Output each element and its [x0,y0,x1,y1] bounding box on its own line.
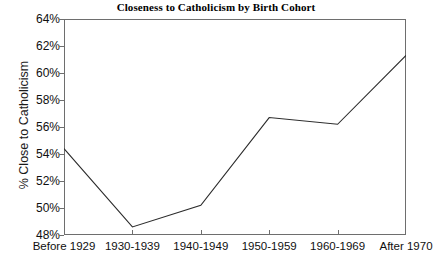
x-tick-label: 1930-1939 [105,240,160,252]
x-tick-label: 1950-1959 [242,240,297,252]
y-tick-label: 50% [0,201,60,215]
x-tick-label: 1960-1969 [310,240,365,252]
y-tick-label: 58% [0,93,60,107]
x-tick-mark [269,230,270,235]
x-tick-label: After 1970 [379,240,432,252]
data-line [64,55,406,226]
y-tick-label: 62% [0,39,60,53]
y-axis-ticks: 64%62%60%58%56%54%52%50%48% [0,0,60,258]
x-tick-label: Before 1929 [33,240,96,252]
x-tick-mark [338,230,339,235]
x-tick-label: 1940-1949 [173,240,228,252]
x-tick-mark [132,230,133,235]
plot-area [64,19,406,235]
x-tick-mark [201,230,202,235]
y-tick-label: 52% [0,174,60,188]
chart-title: Closeness to Catholicism by Birth Cohort [0,1,432,13]
y-tick-label: 54% [0,147,60,161]
y-tick-mark [59,235,64,236]
y-tick-label: 64% [0,12,60,26]
y-tick-label: 56% [0,120,60,134]
y-tick-label: 60% [0,66,60,80]
